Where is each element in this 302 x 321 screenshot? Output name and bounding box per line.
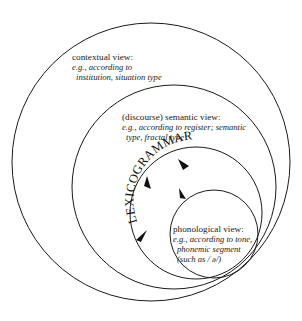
contextual-view-title: contextual view: — [72, 52, 162, 62]
semantic-view-line1: e.g., according to register; semantic — [122, 122, 246, 132]
contextual-view-label: contextual view: e.g., according to inst… — [72, 52, 162, 82]
semantic-view-label: (discourse) semantic view: e.g., accordi… — [122, 112, 246, 142]
arrowhead-icon — [179, 188, 186, 199]
arrowhead-icon — [136, 230, 147, 242]
lexicogrammar-label: LEXICOGRAMMAR — [122, 128, 193, 225]
nested-circles-diagram: LEXICOGRAMMAR — [0, 0, 302, 321]
contextual-view-line2: institution, situation type — [72, 72, 162, 82]
phonological-view-title: phonological view: — [173, 224, 252, 234]
arrowhead-icon — [178, 159, 189, 170]
phonological-view-line1: e.g., according to tone, — [173, 234, 252, 244]
semantic-view-line2: type, fractal type — [122, 132, 246, 142]
arrowhead-icon — [144, 176, 151, 189]
contextual-view-line1: e.g., according to — [72, 62, 162, 72]
phonological-view-label: phonological view: e.g., according to to… — [173, 224, 252, 264]
semantic-view-title: (discourse) semantic view: — [122, 112, 246, 122]
phonological-view-line2: phonemic segment — [173, 244, 252, 254]
phonological-view-line3: (such as / ə/) — [173, 254, 252, 264]
